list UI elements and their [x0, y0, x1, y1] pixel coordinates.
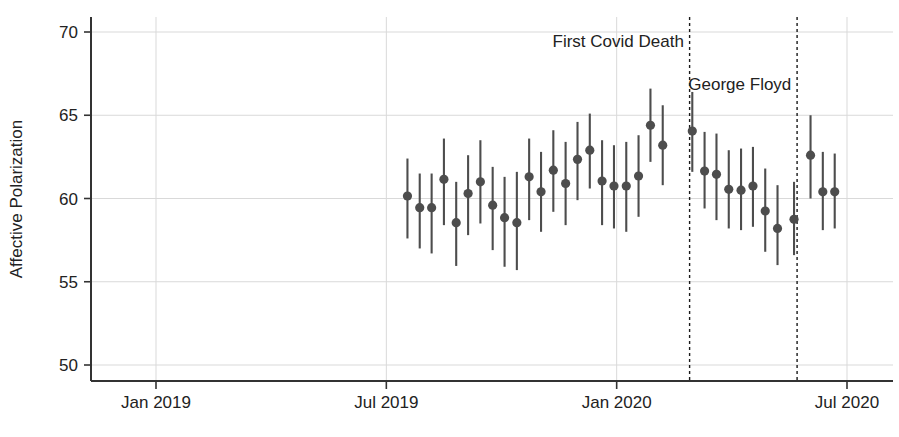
- data-point-marker: [452, 218, 461, 227]
- x-tick-label: Jul 2020: [815, 393, 879, 412]
- y-tick-label: 60: [59, 190, 78, 209]
- data-point-marker: [736, 186, 745, 195]
- y-tick-label: 50: [59, 356, 78, 375]
- data-point-marker: [549, 166, 558, 175]
- data-point-marker: [658, 141, 667, 150]
- y-tick-label: 65: [59, 106, 78, 125]
- x-tick-labels: Jan 2019Jul 2019Jan 2020Jul 2020: [121, 393, 879, 412]
- data-point-marker: [439, 175, 448, 184]
- y-tick-label: 55: [59, 273, 78, 292]
- x-tick-marks: [156, 381, 847, 389]
- data-point-marker: [609, 181, 618, 190]
- y-axis-title: Affective Polarization: [7, 120, 26, 278]
- data-point-marker: [806, 151, 815, 160]
- event-annotation-label: George Floyd: [688, 75, 791, 94]
- event-annotation-labels: First Covid DeathGeorge Floyd: [553, 32, 792, 94]
- data-point-marker: [536, 187, 545, 196]
- data-point-marker: [634, 171, 643, 180]
- data-error-bars: [407, 89, 834, 270]
- data-point-marker: [761, 206, 770, 215]
- data-point-marker: [464, 189, 473, 198]
- data-point-marker: [773, 224, 782, 233]
- data-point-marker: [427, 203, 436, 212]
- data-point-marker: [688, 126, 697, 135]
- x-tick-label: Jan 2019: [121, 393, 191, 412]
- data-point-marker: [748, 181, 757, 190]
- data-point-marker: [830, 187, 839, 196]
- data-point-marker: [512, 218, 521, 227]
- data-point-marker: [700, 166, 709, 175]
- data-point-marker: [403, 191, 412, 200]
- x-tick-label: Jan 2020: [582, 393, 652, 412]
- data-point-marker: [585, 146, 594, 155]
- y-tick-marks: [84, 32, 91, 365]
- data-point-marker: [573, 155, 582, 164]
- data-point-marker: [712, 170, 721, 179]
- data-point-marker: [646, 121, 655, 130]
- figure-container: 5055606570 Jan 2019Jul 2019Jan 2020Jul 2…: [0, 0, 899, 437]
- data-point-marker: [789, 215, 798, 224]
- data-point-marker: [476, 177, 485, 186]
- data-point-marker: [525, 172, 534, 181]
- affective-polarization-chart: 5055606570 Jan 2019Jul 2019Jan 2020Jul 2…: [0, 0, 899, 437]
- y-tick-label: 70: [59, 23, 78, 42]
- data-point-marker: [488, 201, 497, 210]
- x-tick-label: Jul 2019: [354, 393, 418, 412]
- data-point-marker: [622, 181, 631, 190]
- data-point-marker: [818, 187, 827, 196]
- y-axis-title-text: Affective Polarization: [7, 120, 26, 278]
- y-tick-labels: 5055606570: [59, 23, 78, 375]
- data-point-marker: [500, 213, 509, 222]
- event-annotation-label: First Covid Death: [553, 32, 684, 51]
- data-point-marker: [561, 179, 570, 188]
- data-point-marker: [415, 203, 424, 212]
- data-point-marker: [724, 185, 733, 194]
- data-point-marker: [597, 176, 606, 185]
